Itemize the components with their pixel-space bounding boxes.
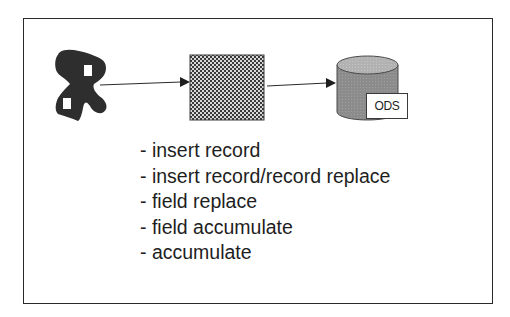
operation-item: - insert record/record replace bbox=[140, 164, 390, 190]
ods-label: ODS bbox=[366, 93, 408, 119]
operation-item: - field accumulate bbox=[140, 215, 390, 241]
operations-list: - insert record - insert record/record r… bbox=[140, 138, 390, 266]
operation-item: - field replace bbox=[140, 189, 390, 215]
arrow-source-to-transform bbox=[100, 77, 190, 87]
checkerboard-process-icon bbox=[190, 55, 264, 120]
scattered-data-icon bbox=[55, 50, 106, 121]
arrow-transform-to-store bbox=[267, 78, 336, 88]
operation-item: - insert record bbox=[140, 138, 390, 164]
operation-item: - accumulate bbox=[140, 240, 390, 266]
